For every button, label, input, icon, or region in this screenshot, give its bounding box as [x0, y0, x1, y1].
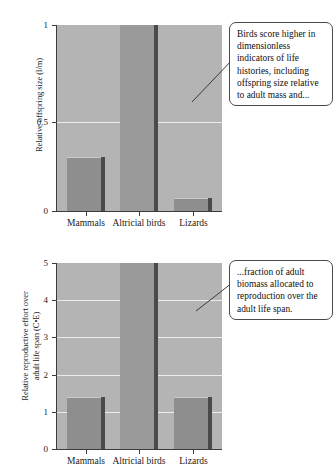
- y-axis-title-top: Relative offspring size (l/m): [34, 10, 45, 200]
- figure-root: Relative offspring size (l/m) 1 0.5 0: [0, 0, 336, 476]
- bar-top-mammals: [67, 157, 105, 211]
- y-axis-tick-bottom-3: [52, 337, 56, 338]
- x-tick-label-bottom-altricial-birds: Altricial birds: [104, 456, 174, 466]
- y-tick-label-top-0: 0: [28, 207, 48, 216]
- y-tick-label-bottom-4: 4: [28, 296, 48, 305]
- bar-shadow: [154, 25, 158, 211]
- x-axis-tick-top-altricial-birds: [139, 212, 140, 216]
- y-tick-label-bottom-3: 3: [28, 333, 48, 342]
- bar-highlight: [67, 157, 105, 158]
- y-tick-label-bottom-2: 2: [28, 371, 48, 380]
- bar-bottom-lizards: [174, 397, 212, 449]
- x-axis-tick-bottom-altricial-birds: [139, 450, 140, 454]
- x-axis-tick-top-lizards: [193, 212, 194, 216]
- y-axis-tick-bottom-1: [52, 412, 56, 413]
- y-tick-label-top-0p5: 0.5: [23, 118, 48, 127]
- y-tick-label-bottom-5: 5: [28, 259, 48, 268]
- y-axis-tick-bottom-2: [52, 375, 56, 376]
- bar-shadow: [101, 397, 105, 449]
- y-axis-tick-top-1: [52, 25, 56, 26]
- bar-top-altricial-birds: [120, 25, 158, 211]
- panel-reproductive-effort: Relative reproductive effort over adult …: [0, 238, 336, 476]
- y-axis-tick-bottom-4: [52, 300, 56, 301]
- bar-bottom-mammals: [67, 397, 105, 449]
- x-tick-label-top-lizards: Lizards: [166, 218, 221, 228]
- y-tick-label-top-1: 1: [28, 21, 48, 30]
- callout-top: Birds score higher in dimensionless indi…: [229, 22, 333, 106]
- x-axis-tick-bottom-mammals: [86, 450, 87, 454]
- bar-highlight: [174, 397, 212, 398]
- plot-area-top: [57, 25, 222, 211]
- plot-area-bottom: [57, 263, 222, 449]
- y-tick-label-bottom-1: 1: [28, 408, 48, 417]
- bar-shadow: [208, 397, 212, 449]
- x-axis-tick-top-mammals: [86, 212, 87, 216]
- bar-highlight: [174, 198, 212, 199]
- bar-highlight: [67, 397, 105, 398]
- x-tick-label-top-altricial-birds: Altricial birds: [104, 218, 174, 228]
- y-axis-tick-top-0p5: [52, 122, 56, 123]
- bar-shadow: [154, 263, 158, 449]
- x-tick-label-bottom-lizards: Lizards: [166, 456, 221, 466]
- panel-offspring-size: Relative offspring size (l/m) 1 0.5 0: [0, 0, 336, 238]
- x-axis-tick-bottom-lizards: [193, 450, 194, 454]
- callout-bottom: ...fraction of adult biomass allocated t…: [229, 260, 333, 320]
- y-tick-label-bottom-0: 0: [28, 445, 48, 454]
- bar-shadow: [101, 157, 105, 211]
- bar-shadow: [208, 198, 212, 211]
- y-axis-tick-bottom-5: [52, 263, 56, 264]
- bar-top-lizards: [174, 198, 212, 211]
- bar-bottom-altricial-birds: [120, 263, 158, 449]
